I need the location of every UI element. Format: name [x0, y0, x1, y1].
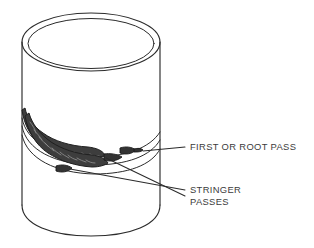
weld-bead-group	[22, 108, 143, 172]
leader-stringer-pass-1	[70, 169, 185, 190]
leader-first-or-root-pass	[143, 147, 185, 151]
stringer-pass-weld-bead-lower	[25, 113, 108, 167]
diagram-canvas: FIRST OR ROOT PASS STRINGER PASSES	[0, 0, 314, 248]
label-stringer-passes-line2: PASSES	[190, 196, 229, 207]
label-group: FIRST OR ROOT PASS STRINGER PASSES	[190, 141, 296, 207]
label-stringer-passes-line1: STRINGER	[190, 184, 241, 195]
root-pass-bead-tail	[134, 148, 143, 152]
label-first-or-root-pass: FIRST OR ROOT PASS	[190, 141, 296, 152]
pipe-cylinder	[22, 13, 160, 236]
pipe-top-rim-ellipse	[22, 13, 160, 71]
pipe-wall-thickness-ellipse	[28, 19, 154, 69]
weld-pass-diagram: FIRST OR ROOT PASS STRINGER PASSES	[0, 0, 314, 248]
pipe-bottom-arc	[22, 205, 160, 236]
